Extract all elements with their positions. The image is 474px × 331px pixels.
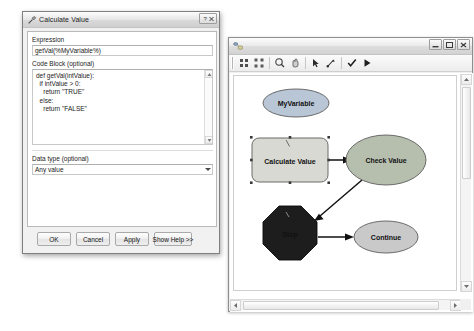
- scroll-down-arrow[interactable]: [461, 281, 472, 292]
- code-scroll-up-arrow[interactable]: [205, 70, 213, 78]
- show-help-button[interactable]: Show Help >>: [154, 232, 192, 246]
- help-close-buttons[interactable]: ?: [199, 13, 217, 24]
- model-vertical-scrollbar[interactable]: [460, 74, 471, 292]
- connector-check-to-stop: [314, 180, 362, 221]
- chevron-down-icon: [205, 168, 211, 171]
- node-stop-label: Stop: [282, 231, 298, 239]
- data-type-label: Data type (optional): [32, 155, 213, 163]
- maximize-button[interactable]: [443, 39, 456, 50]
- tool-zoom-in[interactable]: [273, 56, 287, 70]
- dialog-title: Calculate Value: [39, 16, 89, 23]
- ok-button[interactable]: OK: [37, 232, 71, 246]
- tool-run[interactable]: [360, 56, 374, 70]
- tool-add-data[interactable]: [237, 56, 251, 70]
- node-myvariable[interactable]: MyVariable: [263, 89, 329, 117]
- node-continue[interactable]: Continue: [354, 221, 418, 253]
- node-check-value-label: Check Value: [365, 157, 406, 164]
- node-check-value[interactable]: Check Value: [346, 135, 426, 185]
- code-line: else:: [36, 97, 202, 105]
- model-builder-window: MyVariable Calculate Value: [228, 37, 473, 312]
- minimize-button[interactable]: [429, 39, 442, 50]
- calculate-value-dialog: Calculate Value ? Expression getVal(%MyV…: [22, 11, 220, 254]
- node-myvariable-label: MyVariable: [278, 100, 315, 108]
- code-line: return "TRUE": [36, 88, 202, 96]
- data-type-value: Any value: [35, 166, 64, 174]
- tool-select[interactable]: [309, 56, 323, 70]
- toolbar-separator: [269, 57, 270, 69]
- data-type-dropdown[interactable]: Any value: [32, 164, 213, 175]
- vertical-scroll-thumb[interactable]: [462, 87, 471, 179]
- model-horizontal-scrollbar[interactable]: [230, 299, 461, 310]
- code-scroll-down-arrow[interactable]: [205, 136, 213, 144]
- code-block-scrollbar[interactable]: [204, 70, 212, 144]
- dialog-divider: [32, 150, 213, 151]
- toolbar-separator-3: [341, 57, 342, 69]
- close-button[interactable]: [457, 39, 470, 50]
- dialog-titlebar[interactable]: Calculate Value ?: [23, 12, 219, 28]
- expression-label: Expression: [32, 36, 213, 44]
- horizontal-scroll-thumb[interactable]: [243, 301, 439, 310]
- code-line: def getVal(intValue):: [36, 72, 202, 80]
- dialog-window-controls: ?: [199, 13, 217, 24]
- connector-stop-to-continue: [318, 234, 354, 241]
- node-calculate-value[interactable]: Calculate Value: [250, 136, 330, 184]
- tool-pan[interactable]: [288, 56, 302, 70]
- code-block-label: Code Block (optional): [32, 60, 213, 68]
- scrollbar-corner: [460, 299, 471, 310]
- tool-validate[interactable]: [345, 56, 359, 70]
- model-toolbar: [229, 55, 472, 72]
- code-line: return "FALSE": [36, 105, 202, 113]
- cancel-button[interactable]: Cancel: [76, 232, 110, 246]
- apply-button[interactable]: Apply: [115, 232, 149, 246]
- code-line: if intValue > 0:: [36, 80, 202, 88]
- model-canvas-area[interactable]: MyVariable Calculate Value: [230, 73, 473, 312]
- expression-input[interactable]: getVal(%MyVariable%): [32, 45, 213, 56]
- node-continue-label: Continue: [371, 234, 401, 241]
- tool-auto-layout[interactable]: [252, 56, 266, 70]
- model-window-titlebar[interactable]: [229, 38, 472, 55]
- dialog-body: Expression getVal(%MyVariable%) Code Blo…: [27, 31, 217, 227]
- code-block-input[interactable]: def getVal(intValue): if intValue > 0: r…: [32, 69, 213, 145]
- model-window-controls: [429, 39, 470, 50]
- toolbar-grip[interactable]: [231, 57, 234, 69]
- model-icon: [233, 41, 243, 51]
- tool-connect[interactable]: [324, 56, 338, 70]
- toolbar-separator-2: [305, 57, 306, 69]
- model-diagram-canvas[interactable]: MyVariable Calculate Value: [233, 75, 457, 291]
- tool-hammer-icon: [27, 15, 37, 25]
- node-stop[interactable]: Stop: [263, 206, 317, 260]
- svg-text:?: ?: [204, 16, 208, 22]
- model-diagram: MyVariable Calculate Value: [234, 76, 456, 290]
- screenshot-root: MyVariable Calculate Value: [0, 0, 474, 331]
- scroll-left-arrow[interactable]: [230, 300, 241, 311]
- scroll-up-arrow[interactable]: [461, 74, 472, 85]
- dialog-button-row: OK Cancel Apply Show Help >>: [27, 231, 217, 247]
- node-calculate-value-label: Calculate Value: [264, 158, 315, 165]
